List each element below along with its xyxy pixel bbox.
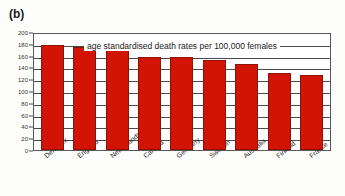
bar-germany [170,57,193,150]
bar-netherlands [106,50,129,150]
y-axis-tick-label: 100 [18,89,28,95]
y-axis: 020406080100120140160180200 [0,33,33,151]
y-axis-tick-label: 40 [21,124,28,130]
bar-finland [268,73,291,150]
plot-area: age standardised death rates per 100,000… [33,33,331,151]
chart-title: age standardised death rates per 100,000… [84,41,280,51]
bar-series [34,34,330,150]
y-axis-tick-label: 0 [25,148,28,154]
bar-canada [138,57,161,150]
bar-england [73,47,96,150]
y-axis-tick-label: 60 [21,113,28,119]
bar-denmark [41,45,64,150]
y-axis-tick-label: 80 [21,101,28,107]
bar-france [300,75,323,150]
y-axis-tick-label: 140 [18,65,28,71]
panel-label: (b) [9,7,24,21]
y-axis-tick-label: 120 [18,77,28,83]
figure-panel-b: (b) 020406080100120140160180200 age stan… [0,0,345,196]
y-axis-tick-label: 20 [21,136,28,142]
bar-australia [235,64,258,150]
x-axis-labels: DenmarkEnglandNetherlandsCanadaGermanySw… [33,151,331,196]
y-axis-tick-label: 180 [18,42,28,48]
y-axis-tick-label: 160 [18,54,28,60]
bar-sweden [203,60,226,150]
y-axis-tick-label: 200 [18,30,28,36]
